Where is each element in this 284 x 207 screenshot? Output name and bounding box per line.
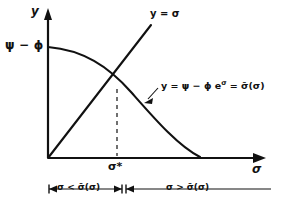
- y-intercept-label: ψ − ϕ: [5, 39, 44, 51]
- sigma-star-tick-label: σ*: [108, 161, 122, 172]
- curve-equation-tail: = σ̄(σ): [227, 80, 265, 91]
- curve-label-leader: [144, 88, 158, 104]
- identity-line: [48, 25, 151, 158]
- y-axis: [44, 8, 52, 158]
- curve-equation-base: y = ψ − ϕ e: [161, 80, 221, 91]
- y-axis-label: y: [31, 5, 39, 17]
- range-label-left: σ < σ̄(σ): [57, 183, 100, 192]
- figure-container: y σ ψ − ϕ y = σ y = ψ − ϕ eσ = σ̄(σ) σ* …: [0, 0, 284, 207]
- x-axis: [48, 153, 266, 163]
- identity-line-label: y = σ: [150, 9, 180, 19]
- curve-equation-label: y = ψ − ϕ eσ = σ̄(σ): [161, 80, 265, 91]
- decay-curve: [48, 47, 200, 157]
- range-label-right: σ > σ̄(σ): [166, 183, 209, 192]
- x-axis-label: σ: [252, 163, 261, 175]
- plot-canvas: [0, 0, 284, 207]
